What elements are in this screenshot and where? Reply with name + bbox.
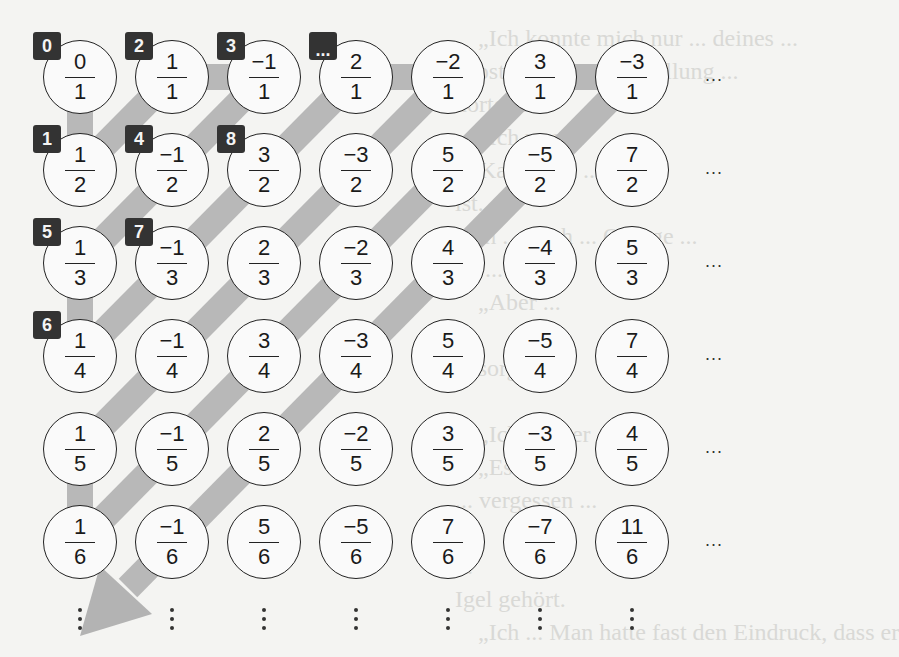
fraction: −76 [525, 515, 555, 570]
fraction-bar [525, 356, 555, 358]
fraction-node: −52 [503, 133, 577, 207]
order-badge: 2 [125, 32, 153, 60]
fraction-bar [157, 77, 187, 79]
denominator: 5 [442, 452, 454, 476]
order-badge: 3 [217, 32, 245, 60]
column-continuation [78, 608, 82, 630]
row-continuation: ... [705, 437, 723, 458]
denominator: 3 [442, 266, 454, 290]
numerator: −4 [527, 236, 552, 260]
column-continuation [630, 608, 634, 630]
fraction: 11 [157, 50, 187, 105]
fraction-bar [433, 77, 463, 79]
row-continuation: ... [705, 530, 723, 551]
fraction-bar [341, 356, 371, 358]
fraction: −15 [157, 422, 187, 477]
fraction-bar [249, 542, 279, 544]
fraction-bar [65, 542, 95, 544]
fraction-node: 74 [595, 319, 669, 393]
fraction-bar [65, 449, 95, 451]
fraction-bar [617, 263, 647, 265]
denominator: 1 [442, 80, 454, 104]
fraction-node: −25 [319, 412, 393, 486]
fraction: 35 [433, 422, 463, 477]
order-badge: 4 [125, 125, 153, 153]
denominator: 3 [534, 266, 546, 290]
fraction-bar [249, 170, 279, 172]
fraction: 13 [65, 236, 95, 291]
fraction: 45 [617, 422, 647, 477]
fraction: −34 [341, 329, 371, 384]
fraction-bar [617, 542, 647, 544]
denominator: 1 [534, 80, 546, 104]
fraction-bar [617, 77, 647, 79]
numerator: 0 [74, 50, 86, 74]
fraction: 43 [433, 236, 463, 291]
row-continuation: ... [705, 251, 723, 272]
fraction: 25 [249, 422, 279, 477]
fraction-node: 34 [227, 319, 301, 393]
fraction: −56 [341, 515, 371, 570]
denominator: 2 [350, 173, 362, 197]
order-badge: 7 [125, 218, 153, 246]
fraction-node: 53 [595, 226, 669, 300]
denominator: 2 [74, 173, 86, 197]
fraction-bar [433, 263, 463, 265]
denominator: 1 [166, 80, 178, 104]
numerator: 3 [258, 143, 270, 167]
denominator: 3 [74, 266, 86, 290]
fraction-node: −21 [411, 40, 485, 114]
fraction-bar [65, 356, 95, 358]
denominator: 6 [534, 545, 546, 569]
numerator: −3 [527, 422, 552, 446]
denominator: 6 [166, 545, 178, 569]
numerator: −1 [159, 515, 184, 539]
fraction-bar [525, 542, 555, 544]
numerator: 5 [626, 236, 638, 260]
fraction: 16 [65, 515, 95, 570]
denominator: 2 [442, 173, 454, 197]
fraction: 31 [525, 50, 555, 105]
fraction: 76 [433, 515, 463, 570]
denominator: 5 [534, 452, 546, 476]
numerator: 5 [442, 329, 454, 353]
numerator: 3 [258, 329, 270, 353]
fraction: 52 [433, 143, 463, 198]
fraction: 56 [249, 515, 279, 570]
order-badge: 8 [217, 125, 245, 153]
denominator: 5 [350, 452, 362, 476]
fraction-node: −31 [595, 40, 669, 114]
denominator: 1 [258, 80, 270, 104]
numerator: 7 [626, 329, 638, 353]
denominator: 1 [74, 80, 86, 104]
fraction: −12 [157, 143, 187, 198]
fraction-node: −43 [503, 226, 577, 300]
column-continuation [170, 608, 174, 630]
fraction: −16 [157, 515, 187, 570]
fraction-node: 23 [227, 226, 301, 300]
numerator: 1 [166, 50, 178, 74]
fraction: 12 [65, 143, 95, 198]
denominator: 4 [626, 359, 638, 383]
denominator: 5 [258, 452, 270, 476]
numerator: −5 [343, 515, 368, 539]
column-continuation [262, 608, 266, 630]
denominator: 2 [626, 173, 638, 197]
denominator: 5 [74, 452, 86, 476]
numerator: 11 [621, 515, 644, 539]
numerator: 2 [258, 236, 270, 260]
fraction: 01 [65, 50, 95, 105]
fraction: 74 [617, 329, 647, 384]
fraction-node: −34 [319, 319, 393, 393]
numerator: −1 [159, 236, 184, 260]
fraction-bar [341, 449, 371, 451]
numerator: −5 [527, 143, 552, 167]
denominator: 3 [166, 266, 178, 290]
column-continuation [538, 608, 542, 630]
fraction-node: 31 [503, 40, 577, 114]
denominator: 4 [74, 359, 86, 383]
fraction-node: 72 [595, 133, 669, 207]
numerator: −1 [159, 422, 184, 446]
denominator: 2 [534, 173, 546, 197]
denominator: 3 [258, 266, 270, 290]
